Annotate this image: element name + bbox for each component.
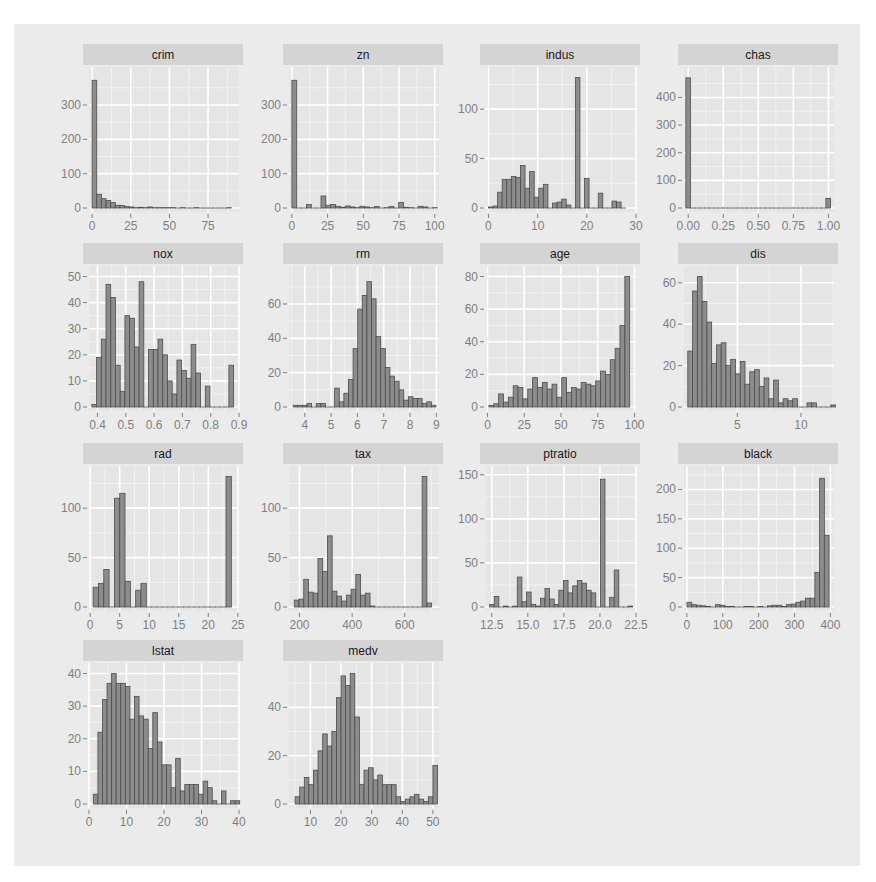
facet-title: indus [546, 48, 575, 62]
x-tick-label: 20.0 [588, 618, 612, 632]
x-tick-label: 20 [202, 618, 216, 632]
facet-title: ptratio [543, 447, 577, 461]
y-tick-label: 200 [61, 132, 81, 146]
y-tick-label: 100 [656, 541, 676, 555]
x-tick-label: 25 [321, 219, 335, 233]
y-tick-label: 60 [465, 302, 479, 316]
x-tick-label: 9 [433, 418, 440, 432]
facet-panel-lstat: lstat010203040010203040 [44, 640, 249, 836]
facet-panel-rad: rad0501000510152025 [44, 443, 249, 639]
x-tick-label: 50 [163, 219, 177, 233]
facet-title: crim [152, 48, 175, 62]
facet-title: black [744, 447, 773, 461]
y-tick-label: 150 [458, 468, 478, 482]
y-tick-label: 100 [656, 173, 676, 187]
y-tick-label: 60 [268, 297, 282, 311]
x-tick-label: 0.6 [146, 418, 163, 432]
x-tick-label: 30 [365, 815, 379, 829]
x-tick-label: 400 [820, 618, 840, 632]
y-tick-label: 400 [656, 90, 676, 104]
y-tick-label: 0 [669, 400, 676, 414]
x-tick-label: 7 [380, 418, 387, 432]
y-tick-label: 0 [471, 600, 478, 614]
y-tick-label: 300 [261, 98, 281, 112]
x-tick-label: 15 [172, 618, 186, 632]
y-tick-label: 100 [458, 102, 478, 116]
y-tick-label: 200 [656, 146, 676, 160]
y-tick-label: 40 [268, 700, 282, 714]
x-tick-label: 300 [785, 618, 805, 632]
facet-title: zn [357, 48, 370, 62]
y-tick-label: 10 [68, 764, 82, 778]
x-tick-label: 0.50 [747, 219, 771, 233]
facet-panel-indus: indus0501000102030 [441, 44, 646, 240]
x-tick-label: 100 [713, 618, 733, 632]
x-tick-label: 0 [484, 418, 491, 432]
y-tick-label: 0 [471, 201, 478, 215]
x-tick-label: 0.25 [712, 219, 736, 233]
x-tick-label: 25 [518, 418, 532, 432]
x-tick-label: 600 [395, 618, 415, 632]
y-tick-label: 20 [68, 732, 82, 746]
y-tick-label: 80 [465, 270, 479, 284]
y-tick-label: 30 [68, 699, 82, 713]
x-tick-label: 0.00 [677, 219, 701, 233]
x-tick-label: 1.00 [817, 219, 841, 233]
x-tick-label: 0.8 [202, 418, 219, 432]
y-tick-label: 0 [669, 201, 676, 215]
y-tick-label: 50 [465, 152, 479, 166]
y-tick-label: 50 [663, 571, 677, 585]
y-tick-label: 20 [68, 348, 82, 362]
y-tick-label: 100 [61, 167, 81, 181]
x-tick-label: 4 [301, 418, 308, 432]
facet-panel-medv: medv020401020304050 [244, 640, 449, 836]
x-tick-label: 17.5 [552, 618, 576, 632]
facet-panel-rm: rm0204060456789 [244, 243, 449, 439]
y-tick-label: 20 [268, 749, 282, 763]
facet-title: dis [750, 247, 765, 261]
y-tick-label: 100 [61, 501, 81, 515]
y-tick-label: 40 [68, 296, 82, 310]
y-tick-label: 40 [68, 667, 82, 681]
y-tick-label: 30 [68, 322, 82, 336]
x-tick-label: 5 [116, 618, 123, 632]
y-tick-label: 300 [656, 118, 676, 132]
facet-grid-figure: crim01002003000255075zn01002003000255075… [14, 24, 860, 866]
y-tick-label: 300 [61, 98, 81, 112]
y-tick-label: 0 [274, 400, 281, 414]
y-tick-label: 0 [471, 400, 478, 414]
x-tick-label: 200 [290, 618, 310, 632]
x-tick-label: 10 [794, 418, 808, 432]
x-tick-label: 0 [89, 219, 96, 233]
y-tick-label: 40 [465, 335, 479, 349]
y-tick-label: 100 [261, 167, 281, 181]
x-tick-label: 0.75 [782, 219, 806, 233]
y-tick-label: 40 [663, 317, 677, 331]
y-tick-label: 20 [268, 366, 282, 380]
facet-title: nox [153, 247, 172, 261]
y-tick-label: 50 [68, 551, 82, 565]
x-tick-label: 5 [328, 418, 335, 432]
x-tick-label: 0.5 [117, 418, 134, 432]
x-tick-label: 30 [195, 815, 209, 829]
x-tick-label: 50 [357, 219, 371, 233]
facet-panel-age: age0204060800255075100 [441, 243, 646, 439]
x-tick-label: 10 [120, 815, 134, 829]
x-tick-label: 0 [684, 618, 691, 632]
facet-panel-nox: nox010203040500.40.50.60.70.80.9 [44, 243, 249, 439]
x-tick-label: 20 [157, 815, 171, 829]
facet-panel-chas: chas01002003004000.000.250.500.751.00 [639, 44, 844, 240]
y-tick-label: 50 [465, 556, 479, 570]
facet-title: age [550, 247, 570, 261]
x-tick-label: 5 [734, 418, 741, 432]
facet-panel-tax: tax050100200400600 [244, 443, 449, 639]
y-tick-label: 100 [458, 512, 478, 526]
x-tick-label: 75 [201, 219, 215, 233]
x-tick-label: 0 [485, 219, 492, 233]
y-tick-label: 50 [268, 551, 282, 565]
x-tick-label: 0.4 [89, 418, 106, 432]
x-tick-label: 0 [87, 618, 94, 632]
x-tick-label: 25 [124, 219, 138, 233]
y-tick-label: 0 [74, 600, 81, 614]
y-tick-label: 150 [656, 512, 676, 526]
